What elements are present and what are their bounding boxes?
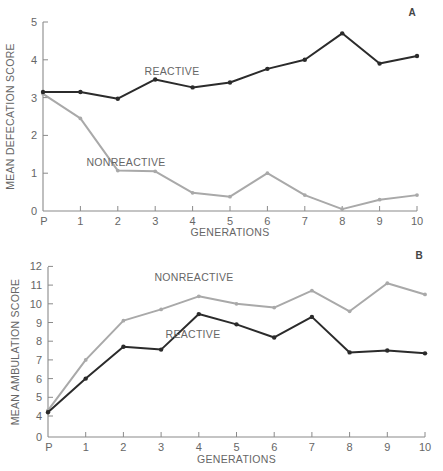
x-tick-label: 6 [271,441,277,453]
y-tick-label: 9 [36,317,42,329]
data-point [79,116,83,120]
data-point [348,309,352,313]
y-axis-title: MEAN AMBULATION SCORE [9,279,21,426]
x-tick-label: 1 [77,215,83,227]
data-point [153,77,157,81]
series-line [43,33,417,98]
y-tick-label: 6 [36,373,42,385]
data-point [84,376,88,380]
data-point [340,207,344,211]
x-tick-label: 2 [115,215,121,227]
x-tick-label: P [45,441,52,453]
data-point [159,347,163,351]
y-tick-label: 10 [30,298,42,310]
data-point [197,294,201,298]
data-point [235,302,239,306]
panel-letter: B [415,250,422,261]
x-tick-label: 3 [152,215,158,227]
series-label: NONREACTIVE [86,156,165,168]
data-point [159,308,163,312]
y-tick-label: 3 [31,92,37,104]
x-tick-label: 3 [158,441,164,453]
x-tick-label: 10 [411,215,423,227]
series-label: REACTIVE [145,65,200,77]
data-point [228,80,232,84]
data-point [377,61,381,65]
y-tick-label: 11 [31,279,42,291]
data-point [153,169,157,173]
x-tick-label: 8 [339,215,345,227]
x-tick-label: 2 [120,441,126,453]
y-tick-label: 0 [31,205,37,217]
x-tick-label: 5 [233,441,239,453]
data-point [415,54,419,58]
data-point [46,410,50,414]
series-reactive: REACTIVE [41,31,419,101]
data-point [116,97,120,101]
y-tick-label: 4 [36,410,42,422]
x-tick-label: P [40,215,47,227]
data-point [190,85,194,89]
y-tick-label: 7 [36,354,42,366]
data-point [78,90,82,94]
x-tick-label: 4 [196,441,202,453]
data-point [122,319,126,323]
chart-panel-a: 012345P12345678910GENERATIONSMEAN DEFECA… [4,7,423,238]
series-line [43,94,417,209]
data-point [197,312,201,316]
data-point [310,289,314,293]
y-tick-label: 4 [31,54,37,66]
data-point [347,350,351,354]
data-point [385,348,389,352]
data-point [423,351,427,355]
data-point [191,191,195,195]
x-tick-label: 1 [83,441,89,453]
data-point [272,335,276,339]
data-point [84,358,88,362]
data-point [423,293,427,297]
y-tick-label: 2 [31,129,37,141]
series-nonreactive: NONREACTIVE [46,271,427,412]
data-point [310,315,314,319]
series-reactive: REACTIVE [46,312,427,415]
y-tick-label: 1 [31,167,37,179]
data-point [272,306,276,310]
x-tick-label: 7 [309,441,315,453]
x-tick-label: 8 [347,441,353,453]
series-label: NONREACTIVE [154,271,233,283]
data-point [303,58,307,62]
x-tick-label: 10 [419,441,431,453]
data-point [41,90,45,94]
y-tick-label: 5 [36,391,42,403]
x-tick-label: 7 [302,215,308,227]
x-axis-title: GENERATIONS [191,226,270,238]
data-point [303,193,307,197]
data-point [116,169,120,173]
data-point [234,322,238,326]
y-tick-label: 8 [36,335,42,347]
series-line [48,314,425,412]
x-axis-title: GENERATIONS [197,453,276,465]
chart-panel-b: 0456789101112P12345678910GENERATIONSMEAN… [9,250,431,465]
series-label: REACTIVE [166,328,221,340]
data-point [265,67,269,71]
panel-letter: A [408,7,415,18]
figure: 012345P12345678910GENERATIONSMEAN DEFECA… [0,0,443,471]
data-point [228,195,232,199]
data-point [385,281,389,285]
x-tick-label: 9 [384,441,390,453]
y-tick-label: 5 [31,16,37,28]
x-tick-label: 9 [377,215,383,227]
data-point [340,31,344,35]
y-tick-label: 12 [30,260,42,272]
data-point [121,345,125,349]
series-nonreactive: NONREACTIVE [41,92,419,211]
y-axis-title: MEAN DEFECATION SCORE [4,43,16,190]
data-point [378,198,382,202]
data-point [415,193,419,197]
y-tick-label: 0 [36,431,42,443]
data-point [266,171,270,175]
